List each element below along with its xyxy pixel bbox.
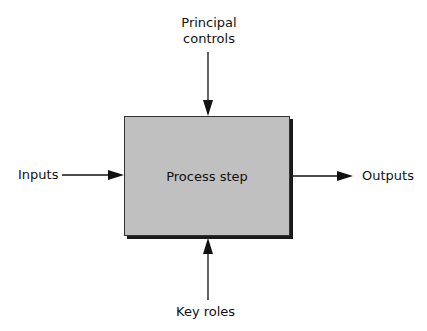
inputs-label: Inputs	[18, 167, 58, 183]
controls-label-line1: Principal	[180, 15, 238, 31]
process-step-box: Process step	[124, 116, 290, 236]
outputs-label: Outputs	[362, 168, 414, 184]
controls-label: Principal controls	[180, 15, 238, 47]
controls-label-line2: controls	[180, 31, 238, 47]
outputs-arrow	[293, 171, 353, 181]
process-step-label: Process step	[125, 169, 289, 184]
roles-label: Key roles	[176, 304, 235, 320]
inputs-arrow	[62, 170, 124, 180]
controls-arrow	[203, 52, 213, 116]
roles-arrow	[203, 238, 213, 300]
